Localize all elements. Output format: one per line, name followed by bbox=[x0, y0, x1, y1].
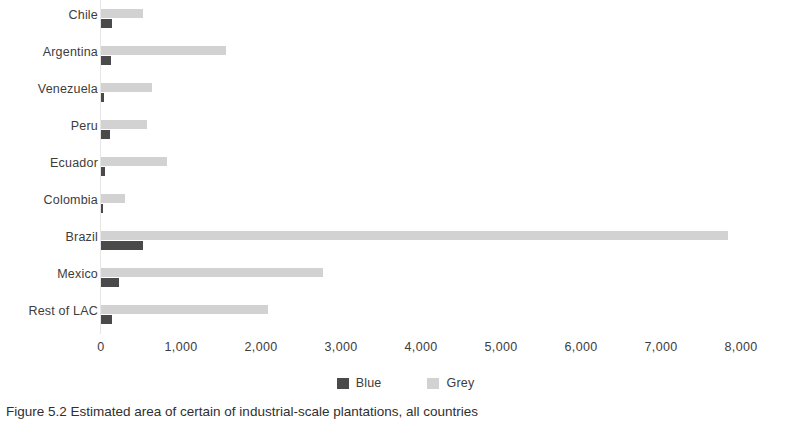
chart-row-ecuador: Ecuador bbox=[0, 154, 811, 191]
x-tick-5000: 5,000 bbox=[461, 340, 541, 354]
category-label-rest-of-lac: Rest of LAC bbox=[0, 304, 98, 318]
legend-item-grey: Grey bbox=[427, 376, 474, 390]
chart-row-brazil: Brazil bbox=[0, 228, 811, 265]
category-label-peru: Peru bbox=[0, 119, 98, 133]
chart-row-chile: Chile bbox=[0, 6, 811, 43]
bar-grey-venezuela bbox=[101, 83, 152, 92]
chart-legend: Blue Grey bbox=[0, 374, 811, 392]
category-label-argentina: Argentina bbox=[0, 45, 98, 59]
chart-row-venezuela: Venezuela bbox=[0, 80, 811, 117]
x-tick-2000: 2,000 bbox=[221, 340, 301, 354]
bar-blue-ecuador bbox=[101, 167, 105, 176]
bar-blue-mexico bbox=[101, 278, 119, 287]
bar-grey-mexico bbox=[101, 268, 323, 277]
figure-caption-region: Figure 5.2 Estimated area of certain of … bbox=[0, 404, 811, 423]
chart-row-colombia: Colombia bbox=[0, 191, 811, 228]
bar-grey-argentina bbox=[101, 46, 226, 55]
bar-grey-ecuador bbox=[101, 157, 167, 166]
chart-row-rest-of-lac: Rest of LAC bbox=[0, 302, 811, 339]
legend-item-blue: Blue bbox=[337, 376, 382, 390]
bar-blue-peru bbox=[101, 130, 110, 139]
x-tick-3000: 3,000 bbox=[301, 340, 381, 354]
chart-row-argentina: Argentina bbox=[0, 43, 811, 80]
legend-swatch-grey-icon bbox=[427, 378, 439, 389]
bar-chart-figure: Chile Argentina Venezuela Peru bbox=[0, 0, 811, 423]
chart-row-mexico: Mexico bbox=[0, 265, 811, 302]
category-label-brazil: Brazil bbox=[0, 230, 98, 244]
bar-grey-colombia bbox=[101, 194, 125, 203]
legend-label-grey: Grey bbox=[446, 376, 474, 390]
x-tick-8000: 8,000 bbox=[701, 340, 781, 354]
bar-grey-chile bbox=[101, 9, 143, 18]
legend-label-blue: Blue bbox=[356, 376, 382, 390]
x-axis: 0 1,000 2,000 3,000 4,000 5,000 6,000 7,… bbox=[0, 340, 811, 362]
bar-grey-brazil bbox=[101, 231, 728, 240]
bar-grey-peru bbox=[101, 120, 147, 129]
category-label-venezuela: Venezuela bbox=[0, 82, 98, 96]
x-tick-6000: 6,000 bbox=[541, 340, 621, 354]
category-label-colombia: Colombia bbox=[0, 193, 98, 207]
figure-caption: Figure 5.2 Estimated area of certain of … bbox=[6, 404, 806, 420]
category-label-ecuador: Ecuador bbox=[0, 156, 98, 170]
bar-grey-rest-of-lac bbox=[101, 305, 268, 314]
legend-swatch-blue-icon bbox=[337, 378, 349, 389]
x-tick-0: 0 bbox=[61, 340, 141, 354]
bar-blue-venezuela bbox=[101, 93, 104, 102]
chart-row-peru: Peru bbox=[0, 117, 811, 154]
x-tick-7000: 7,000 bbox=[621, 340, 701, 354]
category-label-mexico: Mexico bbox=[0, 267, 98, 281]
x-tick-1000: 1,000 bbox=[141, 340, 221, 354]
x-tick-4000: 4,000 bbox=[381, 340, 461, 354]
category-label-chile: Chile bbox=[0, 8, 98, 22]
bar-blue-argentina bbox=[101, 56, 111, 65]
bar-blue-brazil bbox=[101, 241, 143, 250]
bar-blue-chile bbox=[101, 19, 112, 28]
bar-blue-colombia bbox=[101, 204, 103, 213]
plot-area: Chile Argentina Venezuela Peru bbox=[0, 0, 811, 340]
bar-blue-rest-of-lac bbox=[101, 315, 112, 324]
